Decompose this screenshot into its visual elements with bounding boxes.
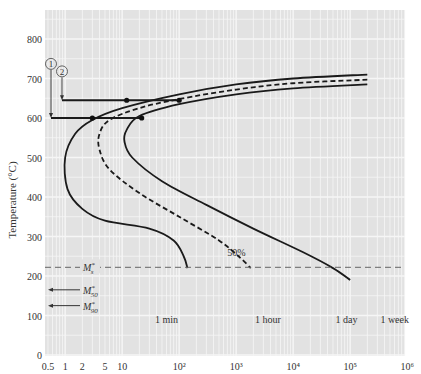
x-tick-label: 2 (80, 361, 85, 372)
plot-area (45, 10, 405, 356)
y-tick-label: 800 (27, 34, 42, 45)
y-tick-label: 200 (27, 271, 42, 282)
path-dot (90, 115, 95, 120)
x-tick-label: 1 (63, 361, 68, 372)
annotation-50-percent: 50% (227, 247, 245, 258)
x-tick-label: 10⁵ (343, 361, 357, 372)
x-tick-label: 0.5 (42, 361, 55, 372)
path-dot (124, 98, 129, 103)
x-tick-label: 10² (173, 361, 186, 372)
y-tick-label: 400 (27, 192, 42, 203)
time-marker-label: 1 min (155, 314, 178, 325)
x-tick-label: 10⁴ (286, 361, 300, 372)
ttt-diagram: 0.51251010²10³10⁴10⁵10⁶ 0100200300400500… (0, 0, 421, 374)
time-marker-label: 1 day (336, 314, 358, 325)
x-tick-label: 10³ (230, 361, 243, 372)
y-tick-label: 100 (27, 311, 42, 322)
x-tick-label: 10 (117, 361, 127, 372)
x-axis-ticks: 0.51251010²10³10⁴10⁵10⁶ (42, 361, 415, 372)
y-tick-label: 600 (27, 113, 42, 124)
path-dot (177, 98, 182, 103)
path-number-1: 1 (49, 59, 54, 69)
y-tick-label: 700 (27, 74, 42, 85)
y-axis-ticks: 0100200300400500600700800 (27, 34, 42, 361)
time-marker-label: 1 hour (255, 314, 282, 325)
y-tick-label: 0 (37, 350, 42, 361)
y-tick-label: 500 (27, 153, 42, 164)
time-marker-label: 1 week (380, 314, 409, 325)
x-tick-label: 5 (103, 361, 108, 372)
path-number-2: 2 (60, 67, 65, 77)
y-tick-label: 300 (27, 232, 42, 243)
path-dot (139, 115, 144, 120)
y-axis-label: Temperature (°C) (6, 161, 19, 239)
x-tick-label: 10⁶ (400, 361, 414, 372)
